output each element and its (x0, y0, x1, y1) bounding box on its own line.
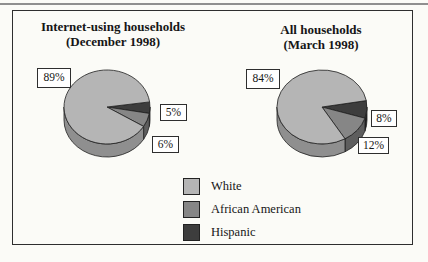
figure-page: Internet-using households (December 1998… (0, 0, 428, 262)
legend-swatch-african-american (183, 201, 200, 218)
legend-swatch-hispanic (183, 224, 200, 241)
legend: White African American Hispanic (183, 178, 301, 247)
legend-label-african-american: African American (211, 202, 301, 217)
pie-left-value-label-african-american: 6% (152, 136, 179, 153)
legend-swatch-white (183, 178, 200, 195)
pie-right (277, 70, 367, 157)
legend-row-white: White (183, 178, 301, 195)
pie-right-value-label-white: 84% (246, 69, 280, 89)
pie-left (64, 70, 150, 157)
pie-right-value-label-hispanic: 8% (371, 110, 397, 127)
legend-row-hispanic: Hispanic (183, 224, 301, 241)
legend-label-white: White (211, 179, 242, 194)
pie-right-value-label-african-american: 12% (358, 137, 389, 154)
pie-left-value-label-hispanic: 5% (160, 104, 187, 121)
legend-label-hispanic: Hispanic (211, 225, 255, 240)
legend-row-african-american: African American (183, 201, 301, 218)
pie-left-value-label-white: 89% (37, 68, 71, 88)
